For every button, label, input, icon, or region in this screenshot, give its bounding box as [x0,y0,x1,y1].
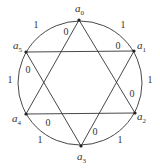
chord-a0-a4 [26,20,79,114]
chord-a4-a2 [26,113,135,114]
chord-a5-a1 [26,51,134,52]
vertex-label-a1: a1 [137,39,147,54]
vertex-a1 [132,49,135,52]
arc-label-a0-a1: 1 [121,19,126,30]
vertex-a5 [24,50,27,53]
chord-label-a4-a2: 0 [46,117,51,128]
arc-label-a5-a0: 1 [34,19,39,30]
vertex-label-a3: a3 [77,150,87,165]
outer-circle [18,21,142,145]
arc-label-a2-a3: 1 [118,134,123,145]
chord-label-a5-a1: 0 [116,40,121,51]
vertex-a4 [24,112,27,115]
chord-label-a5-a3: 0 [26,64,31,75]
chord-label-a0-a2: 0 [130,88,135,99]
vertex-a3 [79,144,82,147]
vertex-label-a2: a2 [137,110,147,125]
arc-label-a3-a4: 1 [38,134,43,145]
vertex-a0 [77,18,80,21]
vertex-label-a5: a5 [13,39,23,54]
hexagram-diagram: a0a1a2a3a4a5 000000111111 [0,0,160,168]
vertex-label-a0: a0 [75,2,85,17]
vertex-label-a4: a4 [12,112,22,127]
arc-label-a1-a2: 1 [148,74,153,85]
chord-label-a1-a3: 0 [93,126,98,137]
chord-label-a0-a4: 0 [64,26,69,37]
arc-label-a4-a5: 1 [8,74,13,85]
